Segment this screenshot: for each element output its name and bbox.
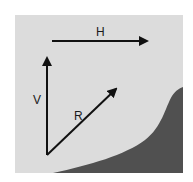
vector-diagram: H V R [0,0,193,182]
v-vector-label: V [33,93,41,107]
h-vector-label: H [96,25,105,39]
r-vector-label: R [74,109,83,123]
